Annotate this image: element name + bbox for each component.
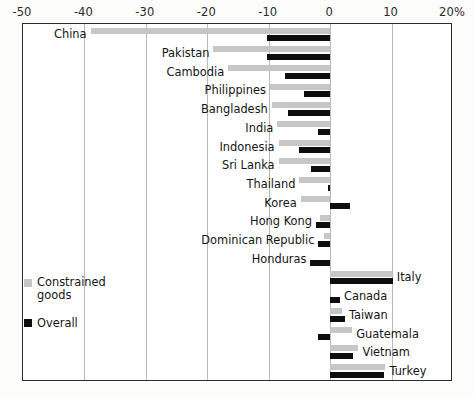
legend-label-constrained: Constrained goods bbox=[24, 276, 106, 303]
bar-constrained-goods bbox=[272, 102, 330, 108]
bar-overall bbox=[299, 147, 330, 153]
x-tick-neg10: -10 bbox=[258, 7, 277, 18]
bar-row-label: Thailand bbox=[247, 179, 300, 190]
bar-row-label: Sri Lanka bbox=[222, 160, 279, 171]
bar-constrained-goods bbox=[320, 215, 330, 221]
bar-row-label: Canada bbox=[340, 291, 387, 302]
x-tick-neg50: -50 bbox=[12, 7, 31, 18]
bar-overall bbox=[311, 166, 330, 172]
bar-row: Pakistan bbox=[23, 45, 451, 64]
bar-row-label: Taiwan bbox=[345, 310, 388, 321]
legend-swatch-overall bbox=[24, 319, 32, 327]
bar-overall bbox=[267, 35, 330, 41]
chart-root: -50-40-30-20-1001020% ChinaPakistanCambo… bbox=[0, 0, 473, 397]
bar-constrained-goods bbox=[279, 158, 331, 164]
bar-row: Sri Lanka bbox=[23, 157, 451, 176]
bar-row-label: Bangladesh bbox=[201, 104, 272, 115]
bar-row: Thailand bbox=[23, 176, 451, 195]
bar-row-label: Vietnam bbox=[358, 347, 409, 358]
bar-constrained-goods bbox=[330, 327, 352, 333]
bar-constrained-goods bbox=[299, 177, 330, 183]
bar-overall bbox=[330, 203, 350, 209]
chart-legend: Constrained goodsOverall bbox=[24, 276, 106, 344]
legend-item-constrained[interactable]: Constrained goods bbox=[24, 276, 106, 303]
bar-overall bbox=[330, 372, 384, 378]
bar-row: Honduras bbox=[23, 250, 451, 269]
legend-label-overall: Overall bbox=[24, 317, 106, 330]
bar-overall bbox=[318, 334, 330, 340]
bar-overall bbox=[330, 316, 345, 322]
bar-constrained-goods bbox=[91, 28, 331, 34]
bar-row: Turkey bbox=[23, 363, 451, 381]
bar-row: Indonesia bbox=[23, 138, 451, 157]
bar-constrained-goods bbox=[301, 196, 330, 202]
bar-row-label: Turkey bbox=[385, 366, 426, 377]
bar-overall bbox=[316, 222, 330, 228]
bar-overall bbox=[318, 129, 330, 135]
legend-swatch-constrained bbox=[24, 279, 32, 287]
bar-overall bbox=[318, 241, 330, 247]
bar-constrained-goods bbox=[277, 121, 330, 127]
x-tick-0: 0 bbox=[325, 7, 332, 18]
bar-row: Dominican Republic bbox=[23, 232, 451, 251]
bar-constrained-goods bbox=[330, 364, 385, 370]
bar-overall bbox=[267, 54, 330, 60]
bar-overall bbox=[310, 260, 330, 266]
bar-overall bbox=[304, 91, 330, 97]
bar-overall bbox=[285, 73, 330, 79]
bar-row-label: Korea bbox=[264, 198, 300, 209]
x-axis-top: -50-40-30-20-1001020% bbox=[0, 0, 473, 24]
legend-item-overall[interactable]: Overall bbox=[24, 317, 106, 330]
bar-overall bbox=[330, 297, 340, 303]
bar-overall bbox=[330, 353, 353, 359]
bar-row-label: China bbox=[54, 29, 91, 40]
x-tick-neg20: -20 bbox=[197, 7, 216, 18]
x-tick-10: 10 bbox=[383, 7, 398, 18]
bar-row-label: Cambodia bbox=[167, 67, 229, 78]
bar-overall bbox=[328, 185, 330, 191]
bar-constrained-goods bbox=[324, 233, 330, 239]
bar-constrained-goods bbox=[270, 84, 330, 90]
bar-constrained-goods bbox=[213, 46, 330, 52]
bar-row-label: Guatemala bbox=[352, 329, 419, 340]
bar-constrained-goods bbox=[330, 271, 391, 277]
bar-overall bbox=[288, 110, 330, 116]
bar-constrained-goods bbox=[279, 140, 331, 146]
bar-row: Philippines bbox=[23, 82, 451, 101]
bar-row-label: Philippines bbox=[205, 85, 270, 96]
bar-constrained-goods bbox=[330, 345, 358, 351]
bar-row: Korea bbox=[23, 194, 451, 213]
bar-row: China bbox=[23, 26, 451, 45]
bar-row-label: Honduras bbox=[252, 254, 311, 265]
bar-row: India bbox=[23, 120, 451, 139]
bar-row-label: Pakistan bbox=[162, 48, 214, 59]
bar-row: Hong Kong bbox=[23, 213, 451, 232]
x-tick-20: 20% bbox=[439, 7, 465, 18]
bar-row-label: India bbox=[245, 123, 277, 134]
x-tick-neg40: -40 bbox=[74, 7, 93, 18]
bar-row-label: Italy bbox=[393, 272, 422, 283]
bar-row-label: Indonesia bbox=[219, 142, 278, 153]
bar-overall bbox=[330, 278, 393, 284]
bar-constrained-goods bbox=[330, 308, 342, 314]
x-tick-neg30: -30 bbox=[135, 7, 154, 18]
bar-row-label: Hong Kong bbox=[250, 216, 316, 227]
bar-row-label: Dominican Republic bbox=[201, 235, 318, 246]
bar-row: Bangladesh bbox=[23, 101, 451, 120]
bar-row: Vietnam bbox=[23, 344, 451, 363]
bar-constrained-goods bbox=[228, 65, 330, 71]
bar-row: Cambodia bbox=[23, 63, 451, 82]
